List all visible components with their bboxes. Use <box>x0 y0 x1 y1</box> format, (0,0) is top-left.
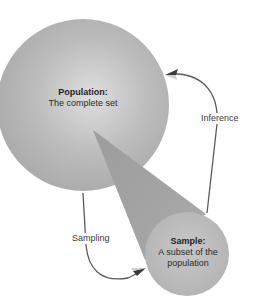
sample-title: Sample: <box>170 236 205 246</box>
inference-arrowhead-icon <box>165 69 178 75</box>
sample-description-line2: population <box>167 258 209 268</box>
sample-description-line1: A subset of the <box>158 247 218 257</box>
population-description: The complete set <box>48 98 117 108</box>
population-label: Population: The complete set <box>43 87 123 109</box>
inference-arrow <box>172 74 217 213</box>
inference-arrowhead-shadow <box>165 75 177 80</box>
population-title: Population: <box>58 87 108 97</box>
sample-label: Sample: A subset of the population <box>152 236 224 269</box>
sampling-label: Sampling <box>71 233 111 244</box>
inference-label: Inference <box>200 113 240 124</box>
